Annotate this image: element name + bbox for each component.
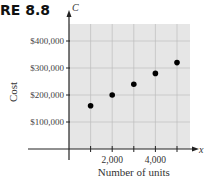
y-axis-arrow-icon — [67, 10, 72, 17]
x-axis-variable: x — [198, 144, 204, 155]
y-tick-label: $100,000 — [30, 117, 64, 127]
data-point — [174, 60, 180, 66]
y-tick-label: $300,000 — [30, 63, 64, 73]
y-tick-label: $200,000 — [30, 90, 64, 100]
x-axis-title: Number of units — [98, 166, 170, 178]
x-axis-arrow-icon — [192, 147, 199, 152]
x-tick-label: 2,000 — [102, 155, 124, 165]
data-point — [131, 81, 137, 87]
y-tick-label: $400,000 — [30, 36, 64, 46]
plot-area — [69, 24, 190, 149]
scatter-chart: Cx2,0004,000$100,000$200,000$300,000$400… — [0, 0, 206, 180]
data-point — [109, 92, 115, 98]
data-point — [153, 71, 159, 77]
data-point — [88, 103, 94, 109]
x-tick-label: 4,000 — [145, 155, 167, 165]
y-axis-title: Cost — [7, 82, 19, 102]
y-axis-variable: C — [72, 2, 79, 13]
